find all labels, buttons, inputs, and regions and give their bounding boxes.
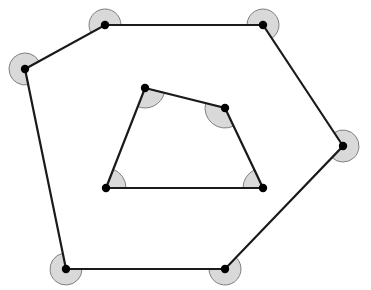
vertex-dot-outer-D — [339, 142, 347, 150]
vertex-dot-outer-C — [259, 21, 267, 29]
vertex-dot-inner-P — [141, 84, 149, 92]
vertex-dot-outer-F — [62, 265, 70, 273]
vertex-dot-outer-B — [101, 21, 109, 29]
geometry-figure — [0, 0, 371, 290]
vertex-dot-inner-S — [102, 184, 110, 192]
vertex-dot-outer-A — [21, 65, 29, 73]
vertex-dot-inner-Q — [221, 104, 229, 112]
canvas-background — [0, 0, 371, 290]
vertex-dot-outer-E — [221, 265, 229, 273]
vertex-dot-inner-R — [259, 184, 267, 192]
diagram-canvas — [0, 0, 371, 290]
